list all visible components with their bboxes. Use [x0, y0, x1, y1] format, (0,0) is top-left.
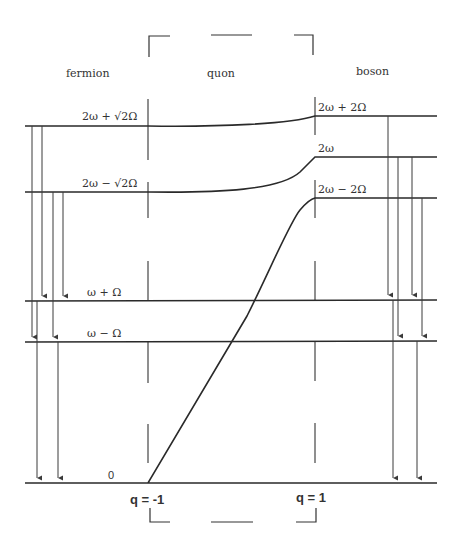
quon-region-bracket	[149, 35, 316, 522]
energy-level-diagram: fermion quon boson 2ω + √2Ω 2ω − √2Ω ω +…	[0, 0, 460, 547]
boson-level-label: 2ω − 2Ω	[318, 183, 366, 196]
boson-level-label: 2ω	[318, 142, 334, 155]
fermion-level-label: ω + Ω	[87, 286, 121, 299]
level-w-plus-omega	[25, 300, 437, 301]
q-minus-1-label: q = -1	[130, 492, 164, 507]
fermion-label: fermion	[66, 67, 110, 80]
q-plus-1-label: q = 1	[296, 490, 326, 505]
fermion-transition-arrows	[32, 126, 63, 478]
boson-level-label: 2ω + 2Ω	[318, 101, 366, 114]
boson-label: boson	[356, 65, 389, 78]
fermion-level-label: 2ω − √2Ω	[82, 177, 137, 190]
fermion-level-label: ω − Ω	[87, 327, 121, 340]
fermion-level-label: 2ω + √2Ω	[82, 110, 137, 123]
boson-transition-arrows	[388, 116, 422, 478]
fermion-level-label: 0	[108, 469, 114, 481]
level-w-minus-omega	[25, 341, 437, 342]
quon-label: quon	[207, 67, 235, 80]
